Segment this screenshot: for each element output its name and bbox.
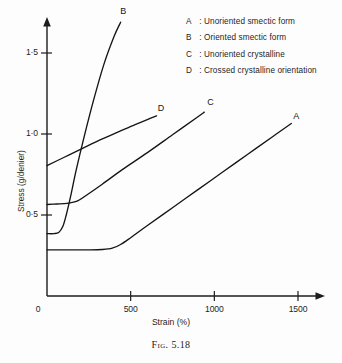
x-tick-label-2: 1000 (194, 304, 234, 314)
legend-item-b: B:Oriented smectic form (186, 30, 336, 46)
legend-key-d: D (186, 63, 197, 79)
legend-separator-c: : (197, 47, 204, 63)
figure-5-18: A:Unoriented smectic form B:Oriented sme… (0, 0, 342, 363)
legend-key-b: B (186, 30, 197, 46)
curve-c (47, 112, 204, 204)
curve-label-c: C (207, 97, 214, 107)
y-axis-arrow-icon (43, 17, 51, 27)
legend-separator-d: : (197, 63, 204, 79)
y-tick-label-2: 1·5 (8, 47, 38, 57)
legend-separator-b: : (197, 30, 204, 46)
curve-label-d: D (158, 103, 165, 113)
curve-label-a: A (293, 111, 299, 121)
curve-a (47, 123, 291, 249)
x-axis-arrow-icon (316, 292, 326, 300)
x-tick-label-3: 1500 (278, 304, 318, 314)
legend: A:Unoriented smectic form B:Oriented sme… (186, 14, 336, 80)
legend-item-d: D:Crossed crystalline orientation (186, 63, 336, 79)
legend-separator-a: : (197, 14, 204, 30)
legend-text-b: Oriented smectic form (204, 33, 286, 42)
legend-text-c: Unoriented crystalline (204, 50, 285, 59)
legend-text-a: Unoriented smectic form (204, 17, 295, 26)
legend-item-c: C:Unoriented crystalline (186, 47, 336, 63)
curve-label-b: B (120, 6, 126, 16)
legend-text-d: Crossed crystalline orientation (204, 66, 317, 75)
legend-key-a: A (186, 14, 197, 30)
y-axis-title: Stress (g/denier) (16, 150, 26, 212)
origin-label: 0 (29, 304, 47, 314)
legend-key-c: C (186, 47, 197, 63)
figure-caption: Fig. 5.18 (0, 339, 342, 350)
curve-b (47, 22, 121, 233)
x-axis-title: Strain (%) (0, 317, 342, 327)
legend-item-a: A:Unoriented smectic form (186, 14, 336, 30)
x-tick-label-1: 500 (111, 304, 151, 314)
y-tick-label-1: 1·0 (8, 128, 38, 138)
